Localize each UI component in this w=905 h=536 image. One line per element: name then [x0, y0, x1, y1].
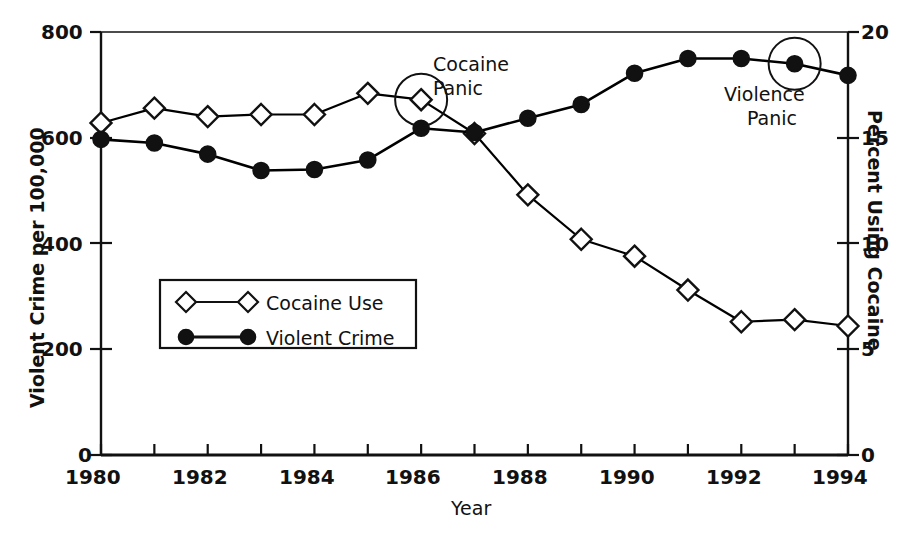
data-point-cocaine-use-1984 — [304, 104, 325, 125]
data-point-violent-crime-1984 — [306, 161, 322, 177]
annotation-highlights — [395, 38, 821, 126]
plot-area — [0, 0, 905, 536]
data-point-violent-crime-1991 — [680, 50, 696, 66]
data-point-violent-crime-1982 — [200, 146, 216, 162]
data-point-violent-crime-1985 — [360, 152, 376, 168]
data-point-cocaine-use-1993 — [784, 309, 805, 330]
data-point-violent-crime-1988 — [520, 110, 536, 126]
data-point-violent-crime-1986 — [413, 120, 429, 136]
legend-box — [160, 280, 416, 348]
data-point-cocaine-use-1983 — [251, 104, 272, 125]
data-point-violent-crime-1989 — [573, 96, 589, 112]
data-point-cocaine-use-1981 — [144, 98, 165, 119]
data-point-violent-crime-1990 — [627, 65, 643, 81]
legend-marker-violent-crime-right — [241, 330, 256, 345]
data-point-cocaine-use-1985 — [357, 83, 378, 104]
data-point-violent-crime-1981 — [146, 135, 162, 151]
x-axis-ticks — [101, 444, 848, 455]
data-point-cocaine-use-1994 — [838, 315, 859, 336]
data-point-cocaine-use-1986 — [411, 89, 432, 110]
data-point-cocaine-use-1991 — [677, 280, 698, 301]
legend-marker-cocaine-use-right — [238, 292, 258, 312]
data-point-cocaine-use-1990 — [624, 246, 645, 267]
chart-figure: Violent Crime per 100,000 Percent Using … — [0, 0, 905, 536]
data-series-layer — [91, 50, 859, 336]
data-point-cocaine-use-1980 — [91, 112, 112, 133]
data-point-violent-crime-1994 — [840, 67, 856, 83]
data-point-violent-crime-1987 — [467, 124, 483, 140]
data-point-violent-crime-1992 — [733, 50, 749, 66]
legend-marker-cocaine-use-left — [176, 292, 196, 312]
data-point-violent-crime-1983 — [253, 163, 269, 179]
legend-marker-violent-crime-left — [179, 330, 194, 345]
data-point-cocaine-use-1982 — [197, 106, 218, 127]
data-point-violent-crime-1993 — [787, 56, 803, 72]
data-point-cocaine-use-1992 — [731, 311, 752, 332]
data-point-violent-crime-1980 — [93, 131, 109, 147]
axis-frame — [101, 32, 848, 455]
